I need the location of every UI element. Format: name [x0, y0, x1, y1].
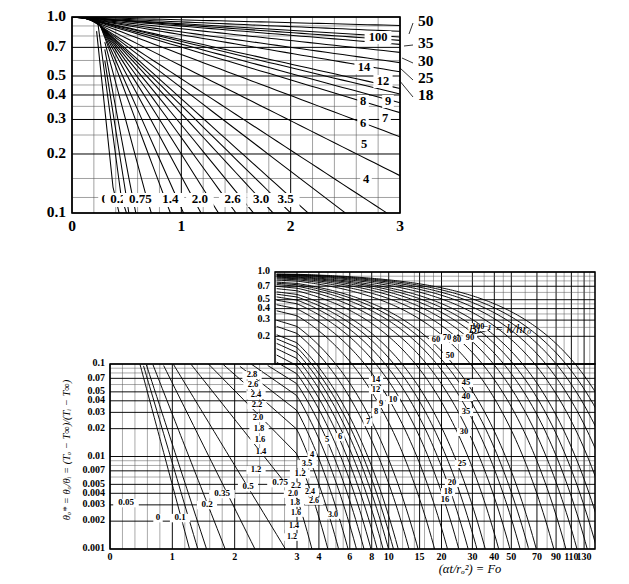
curve-label-main: 12 — [372, 384, 381, 394]
curve-label-main: 0.05 — [118, 497, 134, 507]
x-tick-label: 50 — [506, 551, 516, 562]
curve-label-main: 2.4 — [305, 487, 315, 496]
curve-label-main: 1.2 — [287, 532, 297, 541]
curve-label-outside: 18 — [418, 86, 434, 103]
curve-label-main: 0.1 — [174, 512, 186, 522]
curve-label-main: 0.5 — [242, 481, 254, 491]
curve-label-main: 100 — [472, 321, 485, 331]
x-tick-label: 0 — [108, 551, 113, 562]
x-tick-label: 3 — [295, 551, 300, 562]
curve-label-main: 1.8 — [290, 498, 300, 507]
y-tick-label: 0.2 — [258, 330, 271, 341]
x-tick-label: 15 — [415, 551, 425, 562]
y-tick-label: 0.4 — [47, 85, 67, 102]
x-axis-title: (αt/rₒ²) = Fo — [439, 562, 502, 576]
x-tick-label: 90 — [551, 551, 561, 562]
curve-label-top: 5 — [361, 137, 367, 151]
curve-label-main: 35 — [462, 406, 471, 416]
y-tick-label: 0.03 — [88, 406, 106, 417]
curve-label-main: 40 — [462, 391, 471, 401]
x-tick-label: 1 — [177, 217, 185, 234]
x-tick-label: 30 — [467, 551, 477, 562]
leader-line — [400, 68, 413, 80]
y-tick-label: 0.05 — [88, 385, 106, 396]
curve-label-top: 0.75 — [129, 191, 152, 206]
y-tick-label: 0.7 — [258, 280, 271, 291]
curve-label-top: 14 — [358, 60, 371, 74]
curve-label-main: 2.0 — [288, 489, 298, 498]
curve-label-main: 9 — [379, 398, 383, 408]
curve-label-top: 7 — [382, 111, 388, 125]
y-tick-label: 0.3 — [47, 109, 67, 126]
x-tick-label: 70 — [532, 551, 542, 562]
curve-label-main: 1.6 — [255, 434, 266, 444]
y-tick-label: 1.0 — [258, 265, 271, 276]
y-tick-label: 0.5 — [258, 293, 271, 304]
curve-label-main: 1.2 — [294, 468, 306, 478]
curve-label-main: 6 — [338, 431, 342, 441]
curve-label-main: 60 — [432, 334, 441, 344]
y-axis-title: θₒ* = θₒ/θᵢ = (Tₒ − T∞)/(Tᵢ − T∞) — [61, 379, 73, 520]
y-tick-label: 0.1 — [47, 203, 66, 220]
x-tick-label: 4 — [316, 551, 321, 562]
curve-label-main: 1.6 — [291, 508, 301, 517]
curve-label-top: 1.4 — [162, 191, 179, 206]
curve-label-outside: 25 — [418, 69, 434, 86]
curve-label-main: 16 — [441, 494, 450, 504]
y-tick-label: 0.02 — [88, 422, 106, 433]
y-tick-label: 0.003 — [83, 498, 106, 509]
curve-label-main: 2.6 — [248, 379, 259, 389]
x-tick-label: 8 — [369, 551, 374, 562]
curve-label-outside: 50 — [418, 12, 434, 29]
x-tick-label: 2 — [287, 217, 295, 234]
x-tick-label: 130 — [577, 551, 592, 562]
curve-label-main: 70 — [443, 332, 452, 342]
heisler-chart-figure: 00.20.751.42.02.63.03.50.10.20.30.40.50.… — [0, 0, 629, 584]
x-tick-label: 0 — [68, 217, 76, 234]
curve-label-main: 3.5 — [302, 458, 313, 468]
curve-label-main: 10 — [389, 394, 398, 404]
x-tick-label: 6 — [347, 551, 352, 562]
curve-label-main: 1.4 — [256, 446, 267, 456]
curve-label-main: 2.2 — [252, 399, 263, 409]
x-tick-label: 20 — [437, 551, 447, 562]
curve-label-top: 9 — [385, 94, 391, 108]
curve-label-main: 80 — [453, 334, 462, 344]
y-tick-label: 0.007 — [83, 464, 106, 475]
leader-line — [404, 45, 413, 46]
curve-label-top: 12 — [377, 74, 390, 88]
chart-canvas: 00.20.751.42.02.63.03.50.10.20.30.40.50.… — [0, 0, 629, 584]
y-tick-label: 0.2 — [47, 144, 67, 161]
curve-label-main: 2.8 — [247, 369, 258, 379]
leader-line — [402, 58, 413, 63]
curve-label-main: 45 — [462, 377, 471, 387]
y-tick-label: 0.7 — [47, 37, 67, 54]
y-tick-label: 0.5 — [47, 66, 67, 83]
y-tick-label: 0.1 — [93, 357, 106, 368]
curve-label-top: 3.0 — [253, 191, 269, 206]
curve-label-top: 6 — [360, 116, 366, 130]
curve-label-main: 1.8 — [254, 423, 265, 433]
y-tick-label: 0.07 — [88, 372, 106, 383]
curve-label-main: 3.0 — [328, 510, 338, 519]
curve-label-top: 8 — [360, 94, 366, 108]
curve-label-top: 3.5 — [278, 191, 295, 206]
x-tick-label: 40 — [489, 551, 499, 562]
y-tick-label: 0.001 — [83, 542, 106, 553]
y-tick-label: 1.0 — [47, 7, 67, 24]
curve-label-main: 5 — [325, 434, 329, 444]
curve-label-main: 14 — [372, 374, 381, 384]
y-tick-label: 0.002 — [83, 514, 106, 525]
y-tick-label: 0.3 — [258, 313, 271, 324]
curve-label-main: 2.4 — [251, 389, 262, 399]
curve-label-top: 100 — [369, 30, 388, 44]
curve-label-main: 0 — [156, 512, 161, 522]
curve-label-main: 0.75 — [272, 477, 288, 487]
x-tick-label: 3 — [396, 217, 404, 234]
x-tick-label: 10 — [384, 551, 394, 562]
curve-label-outside: 30 — [418, 52, 434, 69]
curve-label-main: 30 — [460, 426, 469, 436]
curve-label-top: 2.0 — [192, 191, 208, 206]
curve-label-main: 25 — [458, 458, 467, 468]
curve-label-main: 0.35 — [214, 488, 230, 498]
